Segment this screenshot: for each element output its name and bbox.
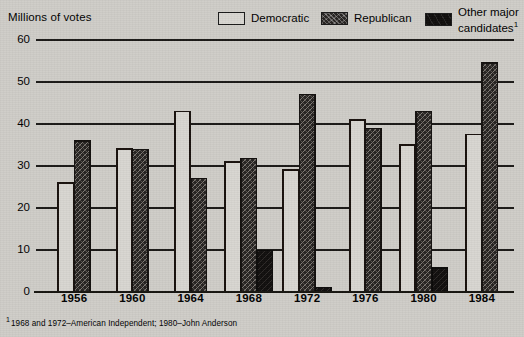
y-tick-0: 0 (4, 285, 30, 297)
bar-1964-republican (191, 179, 207, 292)
x-tick-1980: 1980 (410, 292, 436, 304)
footnote-marker: 1 (6, 316, 10, 323)
bar-1960-democratic (117, 149, 133, 292)
chart-footnote: 11968 and 1972–American Independent; 198… (6, 316, 237, 328)
x-tick-1968: 1968 (236, 292, 262, 304)
chart-canvas (0, 0, 524, 310)
bar-1968-republican (241, 158, 257, 292)
y-tick-50: 50 (4, 75, 30, 87)
bar-1972-democratic (283, 170, 299, 292)
bar-1980-democratic (400, 145, 416, 292)
bar-chart: 0102030405060 19561960196419681972197619… (0, 0, 524, 310)
bar-1976-democratic (350, 120, 366, 292)
bar-1968-democratic (225, 162, 241, 292)
bar-1968-other (257, 250, 273, 292)
bar-1960-republican (133, 149, 149, 292)
bar-1980-other (432, 268, 448, 292)
bar-1956-republican (74, 141, 90, 292)
y-tick-10: 10 (4, 243, 30, 255)
x-tick-1984: 1984 (469, 292, 495, 304)
bar-1964-democratic (175, 111, 191, 292)
y-tick-60: 60 (4, 33, 30, 45)
footnote-text: 1968 and 1972–American Independent; 1980… (11, 319, 237, 328)
x-tick-1972: 1972 (294, 292, 320, 304)
y-tick-40: 40 (4, 117, 30, 129)
bar-1984-republican (482, 63, 498, 292)
y-tick-30: 30 (4, 159, 30, 171)
bar-1972-republican (299, 95, 315, 292)
x-tick-1956: 1956 (61, 292, 87, 304)
x-tick-1960: 1960 (119, 292, 145, 304)
x-tick-1964: 1964 (177, 292, 203, 304)
bar-1984-democratic (466, 135, 482, 293)
bar-1976-republican (366, 128, 382, 292)
bar-1980-republican (416, 111, 432, 292)
x-tick-1976: 1976 (352, 292, 378, 304)
y-tick-20: 20 (4, 201, 30, 213)
bar-1956-democratic (58, 183, 74, 292)
